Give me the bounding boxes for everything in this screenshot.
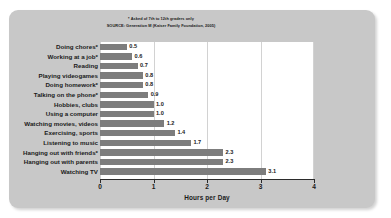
bar <box>100 140 191 146</box>
value-label: 2.3 <box>226 157 234 167</box>
value-label: 0.8 <box>145 71 153 81</box>
annotation-footnote: * Asked of 7th to 12th graders only <box>9 16 375 23</box>
x-tick-4 <box>314 179 315 183</box>
bar-row: Watching TV 3.1 <box>9 167 375 177</box>
bar-row: Hanging out with parents 2.3 <box>9 157 375 167</box>
value-label: 1.7 <box>193 138 201 148</box>
chart-figure: * Asked of 7th to 12th graders only SOUR… <box>9 10 375 208</box>
chart-annotations: * Asked of 7th to 12th graders only SOUR… <box>9 16 375 29</box>
bar-row: Playing videogames 0.8 <box>9 71 375 81</box>
bar-row: Listening to music 1.7 <box>9 138 375 148</box>
bar-row: Hanging out with friends* 2.3 <box>9 148 375 158</box>
x-tick-label-4: 4 <box>312 183 316 190</box>
bar-row: Exercising, sports 1.4 <box>9 128 375 138</box>
annotation-source: SOURCE: Generation M (Kaiser Family Foun… <box>9 23 375 30</box>
value-label: 1.4 <box>177 128 185 138</box>
bar <box>100 168 266 174</box>
category-label: Watching movies, videos <box>24 119 98 129</box>
bar <box>100 72 143 78</box>
value-label: 0.7 <box>140 61 148 71</box>
value-label: 1.0 <box>156 109 164 119</box>
x-axis-title: Hours per Day <box>100 194 314 201</box>
category-label: Hanging out with parents <box>24 157 98 167</box>
category-label: Listening to music <box>43 138 98 148</box>
value-label: 3.1 <box>268 167 276 177</box>
bar <box>100 111 154 117</box>
category-label: Doing homework* <box>45 80 98 90</box>
value-label: 0.5 <box>129 42 137 52</box>
bar <box>100 44 127 50</box>
bar-row: Hobbies, clubs 1.0 <box>9 100 375 110</box>
bar <box>100 53 132 59</box>
x-tick-2 <box>207 179 208 183</box>
x-tick-label-2: 2 <box>205 183 209 190</box>
x-tick-label-0: 0 <box>98 183 102 190</box>
category-label: Hanging out with friends* <box>23 148 98 158</box>
x-tick-3 <box>261 179 262 183</box>
category-label: Using a computer <box>46 109 98 119</box>
value-label: 0.9 <box>151 90 159 100</box>
bar <box>100 149 223 155</box>
category-label: Reading <box>74 61 98 71</box>
bar-row: Talking on the phone* 0.9 <box>9 90 375 100</box>
value-label: 1.2 <box>167 119 175 129</box>
value-label: 0.6 <box>135 52 143 62</box>
bar <box>100 63 138 69</box>
bar-row: Working at a job* 0.6 <box>9 52 375 62</box>
x-tick-0 <box>100 179 101 183</box>
bar-row: Reading 0.7 <box>9 61 375 71</box>
x-tick-1 <box>154 179 155 183</box>
bar <box>100 120 164 126</box>
category-label: Working at a job* <box>48 52 98 62</box>
bar <box>100 159 223 165</box>
bar <box>100 130 175 136</box>
category-label: Doing chores* <box>56 42 98 52</box>
bar <box>100 92 148 98</box>
bar-row: Using a computer 1.0 <box>9 109 375 119</box>
value-label: 2.3 <box>226 148 234 158</box>
bar <box>100 82 143 88</box>
x-tick-label-1: 1 <box>152 183 156 190</box>
bar-row: Watching movies, videos 1.2 <box>9 119 375 129</box>
value-label: 1.0 <box>156 100 164 110</box>
x-tick-label-3: 3 <box>259 183 263 190</box>
category-label: Watching TV <box>61 167 98 177</box>
bar <box>100 101 154 107</box>
category-label: Talking on the phone* <box>34 90 98 100</box>
category-label: Exercising, sports <box>44 128 98 138</box>
value-label: 0.8 <box>145 80 153 90</box>
category-label: Playing videogames <box>39 71 99 81</box>
category-label: Hobbies, clubs <box>54 100 98 110</box>
bar-row: Doing chores* 0.5 <box>9 42 375 52</box>
bar-row: Doing homework* 0.8 <box>9 80 375 90</box>
